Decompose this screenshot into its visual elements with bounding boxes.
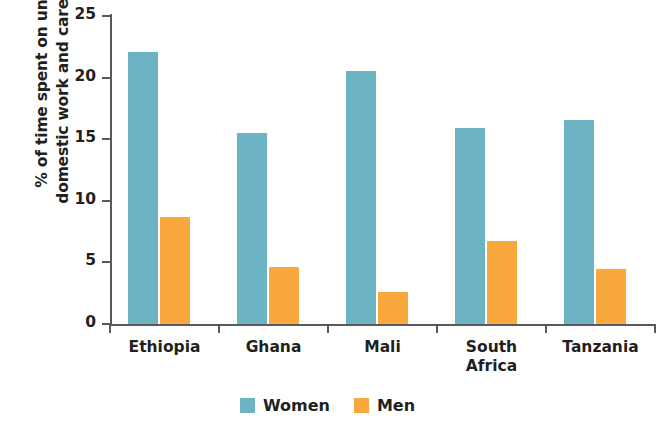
bar-women-mali	[346, 71, 376, 324]
legend-item-men[interactable]: Men	[354, 396, 415, 415]
x-axis-line	[110, 324, 655, 326]
bar-women-ghana	[237, 133, 267, 324]
chart-legend: WomenMen	[0, 396, 655, 415]
bar-men-mali	[378, 292, 408, 324]
legend-label: Men	[377, 396, 415, 415]
x-axis-label: Ghana	[219, 338, 328, 357]
y-axis-tick-label: 10	[56, 190, 96, 208]
bar-men-tanzania	[596, 269, 626, 324]
x-axis-tick	[218, 324, 220, 333]
y-axis-tick-label: 25	[56, 5, 96, 23]
legend-item-women[interactable]: Women	[240, 396, 330, 415]
bar-men-ghana	[269, 267, 299, 324]
bar-women-ethiopia	[128, 52, 158, 324]
bar-women-tanzania	[564, 120, 594, 325]
x-axis-label: Mali	[328, 338, 437, 357]
plot-area	[110, 16, 655, 324]
x-axis-label: Tanzania	[546, 338, 655, 357]
x-axis-tick	[327, 324, 329, 333]
legend-label: Women	[263, 396, 330, 415]
x-axis-label: Ethiopia	[110, 338, 219, 357]
bar-men-ethiopia	[160, 217, 190, 324]
bar-men-south-africa	[487, 241, 517, 324]
y-axis-tick-label: 20	[56, 67, 96, 85]
x-axis-tick	[436, 324, 438, 333]
legend-swatch-icon	[240, 398, 255, 413]
bar-women-south-africa	[455, 128, 485, 324]
y-axis-tick-label: 5	[56, 251, 96, 269]
x-axis-label: South Africa	[437, 338, 546, 376]
y-axis-tick-label: 15	[56, 128, 96, 146]
x-axis-tick	[545, 324, 547, 333]
legend-swatch-icon	[354, 398, 369, 413]
y-axis-title: % of time spent on unpaid domestic work …	[32, 0, 74, 220]
y-axis-tick-label: 0	[56, 313, 96, 331]
x-axis-tick	[109, 324, 111, 333]
